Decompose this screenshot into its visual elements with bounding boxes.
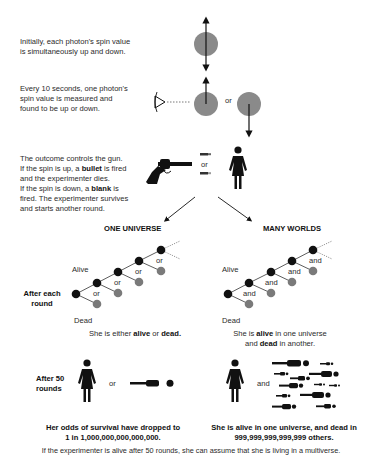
photon-down-icon xyxy=(237,92,261,134)
arrow-to-one-universe xyxy=(166,197,195,220)
alive-woman-icon xyxy=(78,359,96,402)
dead-woman-icon xyxy=(130,380,174,387)
alive-woman-icon-many xyxy=(226,359,244,402)
one-universe-tree xyxy=(72,241,180,308)
revolver-icon xyxy=(146,159,192,184)
bullet-icon xyxy=(200,153,211,156)
arrow-to-many-worlds xyxy=(218,197,250,220)
many-dead-women-icons xyxy=(272,360,340,409)
experimenter-woman-icon xyxy=(229,146,247,189)
blank-icon xyxy=(200,172,211,175)
diagram-graphics xyxy=(0,0,382,467)
photon-superposition-icon xyxy=(194,20,218,68)
photon-up-icon xyxy=(194,80,218,116)
eye-icon xyxy=(155,92,191,112)
many-worlds-tree xyxy=(224,241,332,308)
